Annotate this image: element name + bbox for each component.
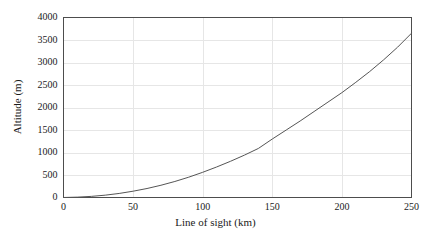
y-axis-tick-label: 3500 bbox=[18, 34, 58, 45]
data-series-altitude bbox=[64, 33, 412, 197]
x-axis-tick-label: 100 bbox=[183, 201, 223, 212]
x-axis-title: Line of sight (km) bbox=[0, 216, 431, 228]
grid-lines bbox=[64, 18, 412, 198]
y-axis-tick-label: 2000 bbox=[18, 101, 58, 112]
y-axis-tick-label: 4000 bbox=[18, 11, 58, 22]
chart-figure: Altitude (m) Line of sight (km) 05001000… bbox=[0, 0, 431, 242]
plot-frame bbox=[64, 18, 412, 198]
x-axis-tick-label: 150 bbox=[252, 201, 292, 212]
y-axis-tick-label: 1000 bbox=[18, 146, 58, 157]
y-axis-tick-label: 2500 bbox=[18, 79, 58, 90]
y-axis-tick-label: 1500 bbox=[18, 124, 58, 135]
x-axis-tick-label: 200 bbox=[322, 201, 362, 212]
y-axis-tick-label: 3000 bbox=[18, 56, 58, 67]
x-axis-tick-label: 250 bbox=[392, 201, 431, 212]
x-axis-tick-label: 50 bbox=[113, 201, 153, 212]
x-axis-tick-label: 0 bbox=[44, 201, 84, 212]
y-axis-tick-label: 500 bbox=[18, 169, 58, 180]
